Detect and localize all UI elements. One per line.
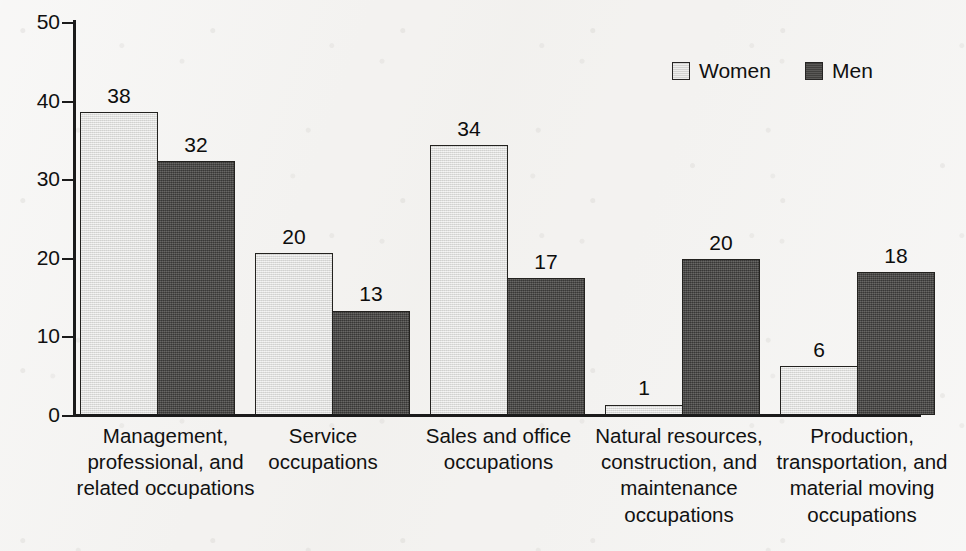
bar-value-men-sales-office: 17 (507, 251, 585, 272)
x-axis-label-service: Service occupations (234, 423, 412, 475)
bar-value-women-production: 6 (780, 339, 858, 360)
x-axis-label-line: maintenance (583, 475, 775, 501)
bar-women-sales-office[interactable] (430, 145, 508, 415)
x-axis-label-line: related occupations (48, 475, 283, 501)
y-tick-label-0: 0 (16, 404, 60, 425)
bar-women-production[interactable] (780, 366, 858, 415)
bar-women-management[interactable] (80, 112, 158, 415)
bar-value-women-management: 38 (80, 85, 158, 106)
legend-swatch-men-icon (805, 62, 823, 80)
x-axis-label-line: material moving (764, 475, 960, 501)
bar-value-men-natural-resources: 20 (682, 232, 760, 253)
bar-value-women-sales-office: 34 (430, 118, 508, 139)
bar-men-natural-resources[interactable] (682, 259, 760, 415)
x-axis-label-natural-resources: Natural resources, construction, and mai… (583, 423, 775, 528)
x-axis-label-line: occupations (764, 502, 960, 528)
x-axis-label-sales-office: Sales and office occupations (406, 423, 591, 475)
y-tick-label-30: 30 (16, 168, 60, 189)
x-axis-label-production: Production, transportation, and material… (764, 423, 960, 528)
y-tick-label-50: 50 (16, 11, 60, 32)
legend-swatch-women-icon (672, 62, 690, 80)
y-tick-label-10: 10 (16, 325, 60, 346)
x-axis-label-line: construction, and (583, 449, 775, 475)
x-axis-label-line: occupations (583, 502, 775, 528)
bar-men-service[interactable] (332, 311, 410, 416)
x-axis-label-line: Service (234, 423, 412, 449)
bar-men-production[interactable] (857, 272, 935, 415)
chart-legend: Women Men (672, 60, 873, 81)
x-axis-line (73, 414, 921, 417)
bar-value-men-management: 32 (157, 134, 235, 155)
bar-men-management[interactable] (157, 161, 235, 415)
bar-women-service[interactable] (255, 253, 333, 415)
grouped-bar-chart: 50 40 30 20 10 0 38 32 20 (0, 0, 966, 551)
x-axis-label-line: occupations (234, 449, 412, 475)
legend-item-women[interactable]: Women (672, 60, 771, 81)
bar-value-men-production: 18 (857, 245, 935, 266)
legend-label-women: Women (699, 60, 771, 81)
y-tick-label-40: 40 (16, 90, 60, 111)
legend-label-men: Men (832, 60, 873, 81)
x-axis-label-line: Sales and office (406, 423, 591, 449)
bar-men-sales-office[interactable] (507, 278, 585, 415)
bar-value-women-natural-resources: 1 (605, 377, 683, 398)
x-axis-label-line: Production, (764, 423, 960, 449)
x-axis-label-line: transportation, and (764, 449, 960, 475)
bar-value-men-service: 13 (332, 283, 410, 304)
bar-value-women-service: 20 (255, 226, 333, 247)
x-axis-label-line: Natural resources, (583, 423, 775, 449)
legend-item-men[interactable]: Men (805, 60, 873, 81)
x-axis-label-line: occupations (406, 449, 591, 475)
y-tick-label-20: 20 (16, 247, 60, 268)
